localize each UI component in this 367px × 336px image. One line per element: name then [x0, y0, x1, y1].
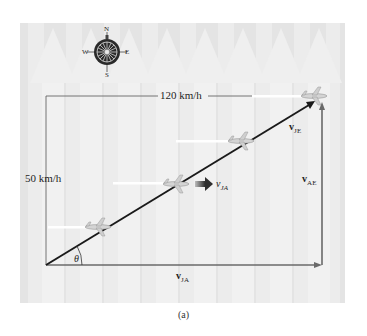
compass-south-label: S — [105, 71, 109, 79]
top-speed-label: 120 km/h — [160, 89, 202, 101]
theta-label: θ — [74, 253, 79, 264]
v-ae-subscript: AE — [307, 179, 317, 187]
compass-north-label: N — [104, 25, 109, 33]
v-ja-bottom-label: vJA — [176, 270, 189, 284]
compass-west-label: W — [82, 48, 89, 56]
vector-diagram — [0, 0, 367, 336]
v-ja-component-arrow — [46, 262, 322, 268]
compass-east-label: E — [125, 48, 129, 56]
v-ja-velocity-arrow — [195, 177, 213, 191]
v-ae-component-arrow — [319, 102, 325, 265]
contrails — [48, 95, 302, 229]
v-je-label: vJE — [289, 121, 301, 135]
figure-caption: (a) — [0, 309, 367, 320]
v-ja-bottom-subscript: JA — [181, 276, 189, 284]
v-je-subscript: JE — [294, 127, 301, 135]
v-ja-mid-label: vJA — [216, 178, 228, 192]
side-speed-label: 50 km/h — [25, 172, 61, 184]
v-ja-mid-subscript: JA — [220, 184, 228, 192]
compass-rose-icon — [87, 32, 127, 72]
v-ae-label: vAE — [302, 173, 317, 187]
